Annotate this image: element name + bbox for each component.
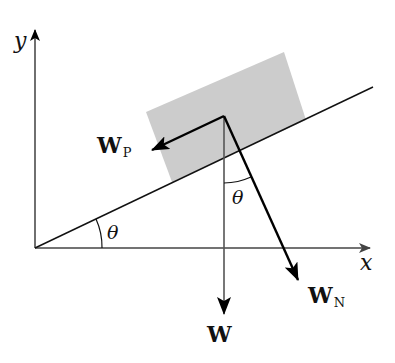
label-wn: WN	[308, 284, 345, 306]
angle-arc-origin	[96, 219, 102, 248]
block	[146, 52, 306, 182]
angle-label-normal: θ	[232, 188, 243, 207]
angle-arc-normal	[224, 177, 251, 183]
angle-label-origin: θ	[107, 223, 118, 242]
label-wn-sub: N	[334, 295, 345, 310]
label-wp-main: W	[97, 132, 122, 158]
label-w: W	[207, 323, 232, 345]
x-axis-label: x	[360, 252, 372, 274]
y-axis-label: y	[14, 30, 26, 52]
label-wp-sub: P	[123, 145, 132, 160]
label-wp: WP	[97, 134, 131, 156]
inclined-plane-diagram: y x θ θ WP WN W	[0, 0, 395, 363]
label-wn-main: W	[308, 282, 333, 308]
